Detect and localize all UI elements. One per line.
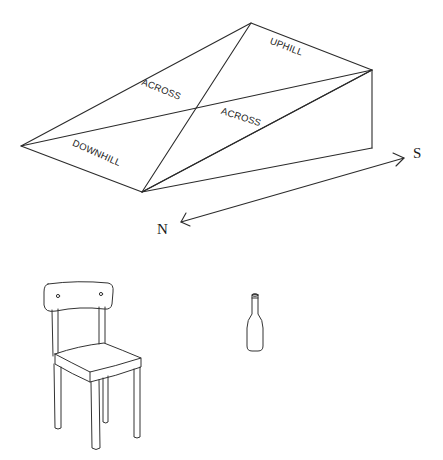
chair-drawing [44, 282, 141, 450]
wedge-base-edge [142, 148, 372, 192]
chair-backrest [44, 282, 113, 312]
bottle-outline [247, 295, 263, 351]
chair-seat [55, 343, 141, 372]
compass-label-north: N [157, 222, 168, 237]
chair-leg-back-right [103, 376, 108, 423]
compass-arrow [181, 153, 404, 226]
bottle-drawing [247, 294, 263, 351]
chair-backrest-hole-right [99, 292, 102, 295]
chair-leg-front-left [91, 380, 100, 450]
chair-leg-back-left [54, 364, 61, 429]
wedge-diagonal-across [21, 70, 372, 146]
chair-leg-front-right [134, 367, 140, 438]
wedge [21, 23, 372, 192]
diagram-canvas [0, 0, 443, 460]
compass-label-south: S [413, 146, 421, 161]
chair-backrest-hole-left [56, 294, 59, 297]
compass-arrow-line [181, 158, 404, 222]
